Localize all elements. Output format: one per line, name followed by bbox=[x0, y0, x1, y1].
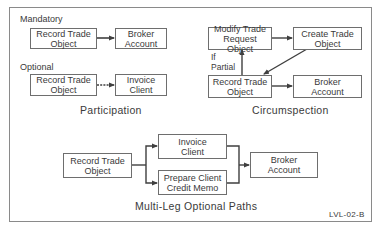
multi-leg-caption: Multi-Leg Optional Paths bbox=[135, 200, 257, 212]
broker-account-box: Broker Account bbox=[293, 75, 362, 98]
create-trade-object-box: Create Trade Object bbox=[293, 27, 362, 50]
mandatory-label: Mandatory bbox=[20, 14, 63, 24]
modify-trade-request-box: Modify Trade Request Object bbox=[208, 27, 272, 50]
figure-code: LVL-02-B bbox=[329, 210, 365, 219]
prepare-client-credit-memo-box: Prepare Client Credit Memo bbox=[158, 170, 227, 195]
participation-caption: Participation bbox=[80, 104, 142, 116]
circumspection-caption: Circumspection bbox=[252, 104, 329, 116]
record-trade-object-box: Record Trade Object bbox=[30, 28, 97, 49]
broker-account-box: Broker Account bbox=[115, 28, 167, 49]
invoice-client-box: Invoice Client bbox=[158, 134, 227, 159]
optional-label: Optional bbox=[20, 62, 54, 72]
invoice-client-box: Invoice Client bbox=[115, 74, 167, 96]
record-trade-object-box: Record Trade Object bbox=[63, 153, 132, 178]
record-trade-object-box: Record Trade Object bbox=[208, 75, 272, 98]
if-partial-label: If Partial bbox=[211, 52, 235, 72]
record-trade-object-box: Record Trade Object bbox=[30, 74, 97, 96]
broker-account-box: Broker Account bbox=[250, 152, 318, 178]
merge-connector bbox=[227, 146, 239, 183]
